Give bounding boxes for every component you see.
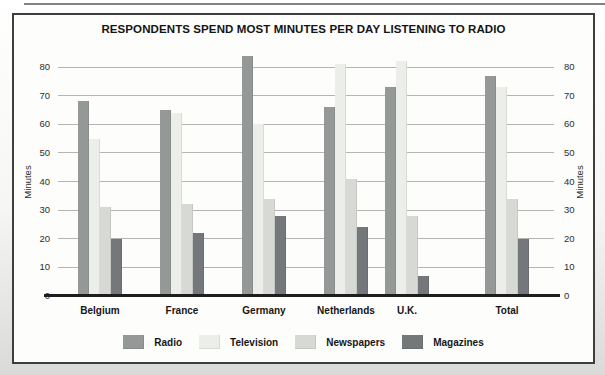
bar-newspapers-u-k xyxy=(407,216,418,296)
x-label-france: France xyxy=(166,305,199,316)
bar-radio-netherlands xyxy=(324,107,335,296)
y-tick-left-50: 50 xyxy=(20,148,50,158)
legend-item-radio: Radio xyxy=(123,335,182,349)
legend-label-magazines: Magazines xyxy=(433,337,484,348)
bar-group-u-k xyxy=(385,61,429,296)
x-label-u-k: U.K. xyxy=(397,305,417,316)
bar-television-belgium xyxy=(89,139,100,296)
legend-item-magazines: Magazines xyxy=(402,335,484,349)
gridline-10 xyxy=(58,267,554,268)
gridline-40 xyxy=(58,181,554,182)
y-tick-left-70: 70 xyxy=(20,91,50,101)
bar-group-belgium xyxy=(78,101,122,296)
bar-group-france xyxy=(160,110,204,296)
bar-magazines-germany xyxy=(275,216,286,296)
legend: RadioTelevisionNewspapersMagazines xyxy=(14,334,593,350)
x-axis-labels: BelgiumFranceGermanyNetherlandsU.K.Total xyxy=(58,305,554,319)
y-tick-left-40: 40 xyxy=(20,177,50,187)
bar-magazines-france xyxy=(193,233,204,296)
gridline-60 xyxy=(58,124,554,125)
y-tick-right-20: 20 xyxy=(564,234,594,244)
y-tick-right-40: 40 xyxy=(564,177,594,187)
y-tick-right-80: 80 xyxy=(564,62,594,72)
y-tick-right-50: 50 xyxy=(564,148,594,158)
bar-television-france xyxy=(171,113,182,296)
gridline-50 xyxy=(58,152,554,153)
y-tick-right-0: 0 xyxy=(564,291,594,301)
bar-television-germany xyxy=(253,124,264,296)
bar-television-u-k xyxy=(396,61,407,296)
legend-label-newspapers: Newspapers xyxy=(326,337,385,348)
scan-artifact-line xyxy=(24,3,605,5)
gridline-30 xyxy=(58,210,554,211)
y-tick-right-30: 30 xyxy=(564,205,594,215)
bar-group-total xyxy=(485,76,529,296)
legend-swatch-newspapers xyxy=(295,335,316,349)
legend-label-television: Television xyxy=(230,337,278,348)
bar-newspapers-netherlands xyxy=(346,179,357,296)
y-tick-left-60: 60 xyxy=(20,119,50,129)
bar-radio-belgium xyxy=(78,101,89,296)
bar-radio-total xyxy=(485,76,496,296)
bar-group-germany xyxy=(242,56,286,296)
legend-swatch-television xyxy=(199,335,220,349)
chart-frame: RESPONDENTS SPEND MOST MINUTES PER DAY L… xyxy=(12,13,595,364)
bar-television-total xyxy=(496,87,507,296)
legend-label-radio: Radio xyxy=(154,337,182,348)
x-label-germany: Germany xyxy=(242,305,285,316)
bar-newspapers-germany xyxy=(264,199,275,296)
y-tick-right-60: 60 xyxy=(564,119,594,129)
y-tick-right-70: 70 xyxy=(564,91,594,101)
legend-swatch-magazines xyxy=(402,335,423,349)
gridline-80 xyxy=(58,67,554,68)
bar-radio-germany xyxy=(242,56,253,296)
legend-swatch-radio xyxy=(123,335,144,349)
x-label-belgium: Belgium xyxy=(80,305,119,316)
bar-television-netherlands xyxy=(335,64,346,296)
y-tick-left-80: 80 xyxy=(20,62,50,72)
legend-item-television: Television xyxy=(199,335,278,349)
x-label-total: Total xyxy=(495,305,518,316)
y-tick-left-10: 10 xyxy=(20,262,50,272)
plot-area: Minutes Minutes 001010202030304040505060… xyxy=(58,67,554,296)
bar-newspapers-total xyxy=(507,199,518,296)
x-label-netherlands: Netherlands xyxy=(317,305,375,316)
gridline-20 xyxy=(58,238,554,239)
chart-title: RESPONDENTS SPEND MOST MINUTES PER DAY L… xyxy=(14,23,593,35)
y-tick-left-30: 30 xyxy=(20,205,50,215)
bar-newspapers-belgium xyxy=(100,207,111,296)
x-axis-baseline xyxy=(44,294,560,297)
bar-group-netherlands xyxy=(324,64,368,296)
y-tick-left-20: 20 xyxy=(20,234,50,244)
bar-magazines-belgium xyxy=(111,239,122,296)
bar-magazines-u-k xyxy=(418,276,429,296)
bar-radio-u-k xyxy=(385,87,396,296)
bar-radio-france xyxy=(160,110,171,296)
bar-magazines-netherlands xyxy=(357,227,368,296)
bar-newspapers-france xyxy=(182,204,193,296)
gridline-70 xyxy=(58,95,554,96)
legend-item-newspapers: Newspapers xyxy=(295,335,385,349)
y-tick-right-10: 10 xyxy=(564,262,594,272)
bar-magazines-total xyxy=(518,239,529,296)
